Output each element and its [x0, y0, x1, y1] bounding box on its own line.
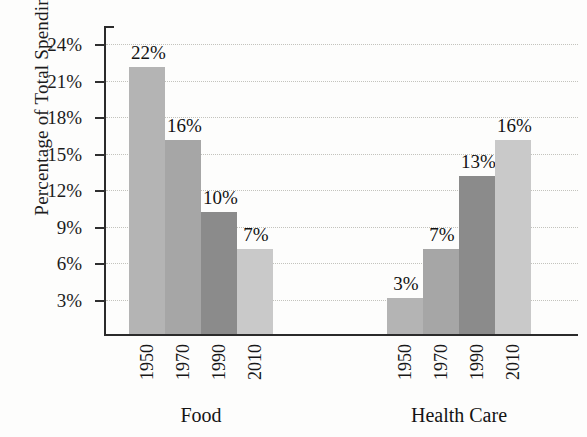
bar-value-label: 16% [167, 115, 202, 137]
y-axis-tick: 18% [95, 117, 106, 119]
x-axis-tick-text: 1970 [431, 344, 452, 380]
x-axis-tick-text: 1950 [395, 344, 416, 380]
gridline [106, 44, 578, 45]
bar-value-label: 22% [131, 42, 166, 64]
x-axis-tick-text: 1990 [467, 344, 488, 380]
y-axis-tick-label: 18% [47, 107, 82, 129]
x-axis-tick-text: 1970 [173, 344, 194, 380]
x-axis-tick-text: 2010 [503, 344, 524, 380]
x-axis-tick-label: 1950 [387, 344, 423, 402]
y-axis-tick-label: 24% [47, 34, 82, 56]
y-axis-tick: 3% [95, 300, 106, 302]
y-axis-tick: 24% [95, 44, 106, 46]
bar: 3% [387, 298, 423, 334]
group-label: Food [99, 404, 303, 427]
bar: 16% [165, 140, 201, 335]
bar-value-label: 13% [461, 151, 496, 173]
bar: 7% [237, 249, 273, 334]
y-axis-top-cap [104, 26, 114, 28]
x-axis-tick-label: 2010 [237, 344, 273, 402]
bar-value-label: 3% [393, 273, 418, 295]
x-axis-tick-label: 1990 [201, 344, 237, 402]
bar: 13% [459, 176, 495, 334]
bar-value-label: 16% [497, 115, 532, 137]
x-axis-tick-text: 1950 [137, 344, 158, 380]
x-axis-tick-label: 1970 [165, 344, 201, 402]
y-axis-tick-label: 6% [57, 253, 82, 275]
x-axis-tick-text: 2010 [245, 344, 266, 380]
y-axis-tick: 6% [95, 263, 106, 265]
gridline [106, 81, 578, 82]
bar: 10% [201, 212, 237, 334]
x-axis-tick-label: 1950 [129, 344, 165, 402]
y-axis-tick-label: 21% [47, 71, 82, 93]
y-axis-tick-label: 15% [47, 144, 82, 166]
bar-value-label: 10% [203, 187, 238, 209]
x-axis-line [104, 334, 578, 336]
bar-chart: Percentage of Total Spending 24%21%18%15… [0, 0, 587, 437]
y-axis-tick-label: 12% [47, 180, 82, 202]
y-axis-tick: 9% [95, 227, 106, 229]
x-axis-tick-label: 1970 [423, 344, 459, 402]
y-axis-tick-label: 3% [57, 290, 82, 312]
x-axis-tick-text: 1990 [209, 344, 230, 380]
plot-area: 24%21%18%15%12%9%6%3% 22%16%10%7%3%7%13%… [104, 26, 578, 336]
group-label: Health Care [357, 404, 561, 427]
y-axis-tick: 12% [95, 190, 106, 192]
x-axis-tick-label: 2010 [495, 344, 531, 402]
y-axis-tick: 21% [95, 81, 106, 83]
bar-value-label: 7% [429, 224, 454, 246]
y-axis-line [104, 26, 106, 336]
bar: 22% [129, 67, 165, 334]
y-axis-tick-label: 9% [57, 217, 82, 239]
x-axis-tick-label: 1990 [459, 344, 495, 402]
bar: 16% [495, 140, 531, 335]
bar: 7% [423, 249, 459, 334]
bar-value-label: 7% [243, 224, 268, 246]
y-axis-tick: 15% [95, 154, 106, 156]
